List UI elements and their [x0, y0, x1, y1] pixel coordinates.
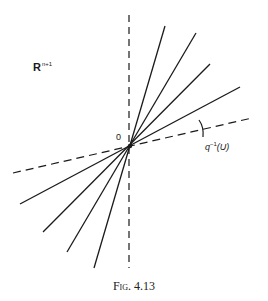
preimage-label: q−1(U) — [205, 141, 229, 152]
preimage-label-arg: (U) — [217, 142, 230, 152]
space-label: Rn+1 — [33, 61, 52, 73]
figure-caption: Fig. 4.13 — [0, 279, 268, 294]
space-label-base: R — [33, 61, 41, 73]
origin-point — [128, 144, 132, 148]
preimage-tick-mark — [199, 120, 203, 137]
origin-label: 0 — [116, 132, 121, 142]
preimage-label-superscript: −1 — [210, 141, 217, 147]
space-label-superscript: n+1 — [42, 61, 52, 67]
